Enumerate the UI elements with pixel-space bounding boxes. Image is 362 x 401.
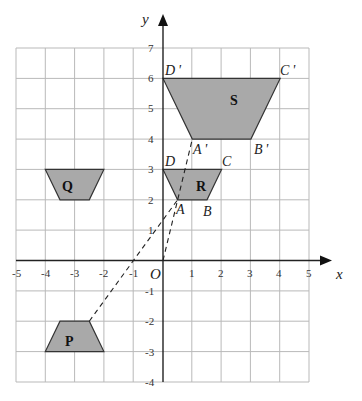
y-tick: -3: [145, 346, 155, 358]
origin-label: O: [150, 266, 161, 282]
x-tick: -5: [12, 267, 22, 279]
x-tick-labels: -5 -4 -3 -2 -1 1 2 3 4 5: [12, 267, 312, 279]
shape-label-q: Q: [62, 179, 73, 194]
y-tick: -1: [145, 285, 154, 297]
vertex-label-d: D: [164, 154, 175, 169]
x-axis-arrow-icon: [320, 256, 332, 266]
y-tick: 7: [148, 42, 154, 54]
x-tick: -1: [129, 267, 138, 279]
y-tick: -2: [145, 315, 154, 327]
y-axis-arrow-icon: [158, 14, 168, 26]
vertex-label-c: C: [222, 154, 232, 169]
coordinate-plane: x y O -5 -4 -3 -2 -1 1 2 3 4 5 7 6 5 4 3…: [0, 0, 362, 401]
vertex-label-d-prime: D ': [164, 63, 182, 78]
x-axis-label: x: [335, 266, 343, 282]
x-tick: 4: [276, 267, 282, 279]
y-tick: 2: [148, 194, 154, 206]
y-tick: 4: [148, 133, 154, 145]
x-tick: 3: [247, 267, 253, 279]
shape-label-r: R: [196, 179, 207, 194]
x-tick: -2: [99, 267, 108, 279]
x-tick: -4: [41, 267, 51, 279]
y-tick: 5: [148, 102, 154, 114]
vertex-label-b-prime: B ': [254, 142, 269, 157]
trapezium-q: [45, 169, 104, 199]
y-tick: 6: [148, 72, 154, 84]
y-tick: 3: [148, 163, 154, 175]
y-axis-label: y: [140, 11, 149, 27]
y-tick-labels: 7 6 5 4 3 2 1 -1 -2 -3 -4: [145, 42, 155, 388]
shape-label-s: S: [230, 93, 238, 108]
x-tick: 5: [306, 267, 312, 279]
x-tick: 2: [218, 267, 224, 279]
y-tick: 1: [148, 224, 154, 236]
vertex-label-a: A: [175, 202, 185, 217]
vertex-label-b: B: [203, 204, 212, 219]
shape-label-p: P: [65, 334, 74, 349]
trapezium-r: [163, 169, 222, 199]
vertex-label-c-prime: C ': [280, 63, 296, 78]
x-tick: 1: [189, 267, 195, 279]
x-tick: -3: [70, 267, 80, 279]
trapezium-s: [163, 78, 280, 139]
y-tick: -4: [145, 376, 155, 388]
vertex-label-a-prime: A ': [192, 142, 208, 157]
trapezium-p: [45, 321, 104, 351]
